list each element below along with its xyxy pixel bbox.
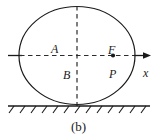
force-label-f: F [108,44,115,56]
center-point-label-a: A [51,43,58,55]
point-label-p: P [109,68,116,80]
lower-point-label-b: B [63,69,70,81]
figure-caption: (b) [0,120,157,133]
x-axis-arrowhead [143,52,151,59]
ground-hatching [9,106,146,113]
figure-container: A B F P x (b) [0,0,157,140]
x-axis-label: x [143,67,148,79]
